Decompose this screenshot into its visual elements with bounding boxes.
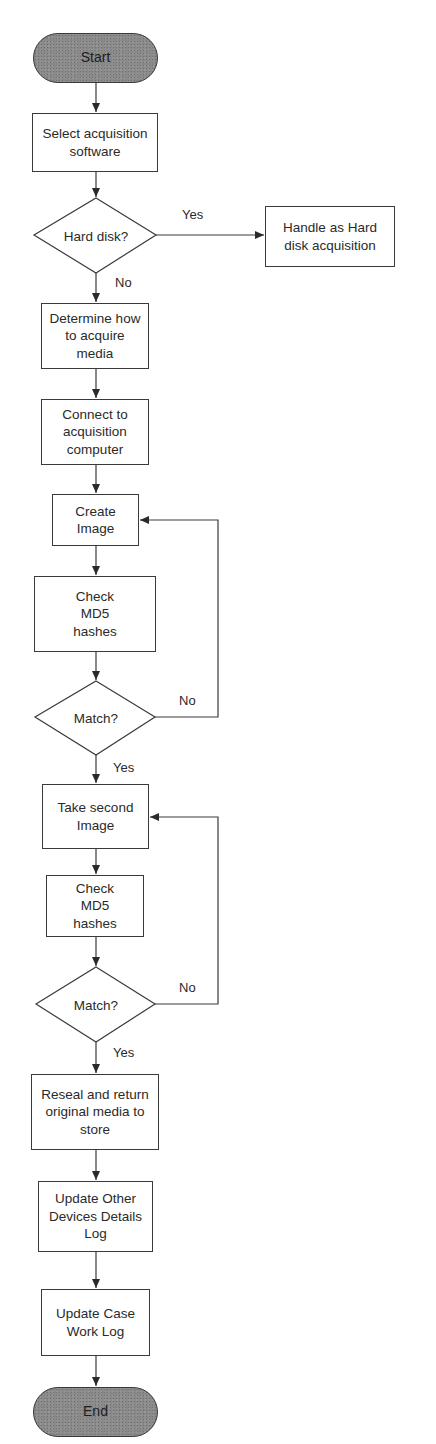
process-label: Connect to acquisition computer bbox=[52, 406, 138, 459]
edge-label-match2-yes: Yes bbox=[113, 1045, 134, 1060]
process-update-other-devices: Update Other Devices Details Log bbox=[38, 1181, 153, 1252]
process-connect: Connect to acquisition computer bbox=[41, 399, 149, 465]
process-check-md5-1: Check MD5 hashes bbox=[34, 576, 156, 652]
flowchart-canvas: Start Select acquisition software Hard d… bbox=[0, 0, 436, 1444]
edge-label-hard-disk-yes: Yes bbox=[182, 207, 203, 222]
start-label: Start bbox=[81, 49, 111, 67]
process-select-software: Select acquisition software bbox=[32, 113, 158, 172]
decision-hard-disk-label: Hard disk? bbox=[64, 229, 129, 244]
process-update-case-work: Update Case Work Log bbox=[41, 1289, 150, 1356]
process-handle-hard-disk: Handle as Hard disk acquisition bbox=[265, 206, 395, 267]
decision-match-2-label: Match? bbox=[74, 998, 118, 1013]
process-label: Check MD5 hashes bbox=[63, 588, 127, 641]
end-terminal: End bbox=[33, 1387, 158, 1437]
decision-match-1-label: Match? bbox=[74, 711, 118, 726]
process-label: Take second Image bbox=[53, 799, 138, 834]
process-label: Update Other Devices Details Log bbox=[41, 1190, 150, 1243]
process-label: Handle as Hard disk acquisition bbox=[280, 219, 380, 254]
process-check-md5-2: Check MD5 hashes bbox=[46, 875, 144, 937]
edge-label-match2-no: No bbox=[179, 980, 196, 995]
process-label: Determine how to acquire media bbox=[46, 310, 144, 363]
process-label: Reseal and return original media to stor… bbox=[36, 1086, 154, 1139]
process-reseal: Reseal and return original media to stor… bbox=[31, 1074, 159, 1150]
start-terminal: Start bbox=[33, 33, 158, 83]
process-label: Select acquisition software bbox=[37, 125, 153, 160]
process-create-image: Create Image bbox=[52, 494, 139, 546]
process-determine-how: Determine how to acquire media bbox=[41, 303, 149, 369]
edge-label-match1-yes: Yes bbox=[113, 760, 134, 775]
process-take-second-image: Take second Image bbox=[42, 784, 149, 849]
edge-label-match1-no: No bbox=[179, 693, 196, 708]
process-label: Update Case Work Log bbox=[52, 1305, 139, 1340]
process-label: Check MD5 hashes bbox=[61, 880, 129, 933]
arrow-match2-no-loop bbox=[150, 817, 218, 1004]
edge-label-hard-disk-no: No bbox=[115, 275, 132, 290]
process-label: Create Image bbox=[69, 503, 122, 538]
end-label: End bbox=[83, 1403, 108, 1421]
